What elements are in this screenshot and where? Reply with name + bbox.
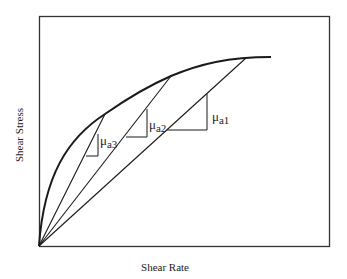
apparent-viscosity-diagram: μa1 μa2 μa3 Shear Rate Shear Stress <box>0 0 347 279</box>
y-axis-label: Shear Stress <box>13 108 25 162</box>
background <box>0 0 347 279</box>
x-axis-label: Shear Rate <box>141 261 189 273</box>
